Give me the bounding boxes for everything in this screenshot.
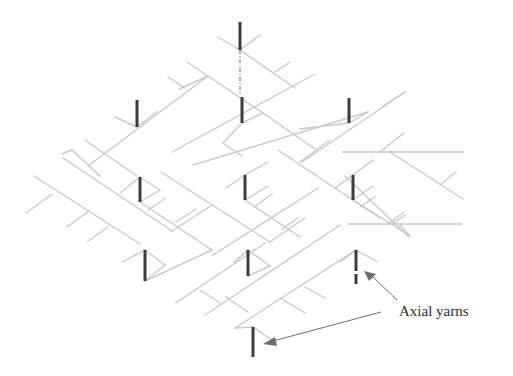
braider-yarn-edge xyxy=(245,186,268,200)
braider-yarn-edge xyxy=(72,150,100,176)
braider-yarn-edge xyxy=(145,250,212,281)
braider-yarn-edge xyxy=(223,143,242,156)
braider-yarn-edge xyxy=(240,50,295,88)
braider-yarn-edge xyxy=(235,327,253,328)
braider-yarn-edge xyxy=(62,150,72,154)
braider-yarn-edge xyxy=(383,92,405,106)
axial-yarns xyxy=(137,22,356,357)
braider-yarn-edge xyxy=(248,250,270,266)
braider-yarn-edge xyxy=(26,194,52,213)
braider-yarn-edge xyxy=(140,177,160,190)
label-leader-arrows xyxy=(263,271,397,346)
braider-yarn-edge xyxy=(380,133,404,152)
braider-yarn-edge xyxy=(275,62,290,72)
braider-yarn-edge xyxy=(240,35,260,50)
braider-yarn-edge xyxy=(223,123,242,143)
braider-yarn-edge xyxy=(137,111,158,127)
braider-yarn-edge xyxy=(245,162,268,175)
braider-yarn-edge xyxy=(218,37,240,50)
braider-yarn-edge xyxy=(34,176,140,244)
braider-yarn-edge xyxy=(242,113,263,123)
braider-yarn-edge xyxy=(88,76,208,166)
braider-yarn-edge xyxy=(172,205,212,231)
braider-yarn-edge xyxy=(63,158,172,231)
braider-yarn-edge xyxy=(187,62,263,113)
braider-yarn-edge xyxy=(300,123,349,129)
braider-yarn-edge xyxy=(253,327,272,340)
braider-yarn-edge xyxy=(280,298,305,313)
braider-yarn-edge xyxy=(440,172,456,185)
braider-yarn-edge xyxy=(168,77,185,88)
braider-yarn-edge xyxy=(200,290,220,303)
braider-yarn-edge xyxy=(88,227,108,241)
braider-yarn-edge xyxy=(120,177,140,193)
braider-yarn-edge xyxy=(193,112,368,165)
braider-yarn-edge xyxy=(122,250,145,262)
braider-yarn-edge xyxy=(235,250,356,328)
braider-yarn-edge xyxy=(145,250,165,265)
braider-yarn-edge xyxy=(67,211,89,227)
leader-line xyxy=(273,312,381,341)
braider-yarn-edge xyxy=(282,218,298,229)
braider-yarn-edge xyxy=(300,140,330,162)
axial-yarns-label: Axial yarns xyxy=(399,303,469,320)
leader-line xyxy=(372,276,397,300)
braider-yarn-edge xyxy=(140,190,160,202)
braider-yarn-edge xyxy=(176,209,196,222)
braider-yarn-edge xyxy=(115,117,137,127)
braider-yarn-edge xyxy=(140,202,212,250)
braider-yarn-edge xyxy=(85,140,137,176)
braider-yarn-edge xyxy=(226,297,248,312)
arrowhead-icon xyxy=(364,271,376,281)
braider-yarn-edge xyxy=(340,250,356,262)
braider-yarn-edge xyxy=(270,218,305,242)
braider-yarn-edge xyxy=(254,194,272,207)
braider-yarn-edge xyxy=(305,287,325,298)
braider-yarn-edge xyxy=(356,250,378,262)
braider-yarn-edge xyxy=(226,175,245,188)
braider-yarn-edge xyxy=(148,198,166,210)
braider-yarn-edge xyxy=(353,160,373,175)
